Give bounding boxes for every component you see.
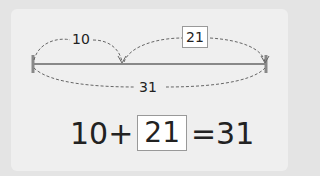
- equals-sign: =: [191, 116, 216, 151]
- total-label: 31: [137, 79, 159, 95]
- sum: 31: [216, 116, 254, 151]
- part-a-label: 10: [70, 31, 92, 47]
- part-b-answer-box: 21: [182, 26, 208, 48]
- equation: 10 + 21 = 31: [70, 115, 254, 151]
- addend-b-answer-box: 21: [137, 115, 187, 151]
- plus-sign: +: [108, 116, 133, 151]
- addend-a: 10: [70, 116, 108, 151]
